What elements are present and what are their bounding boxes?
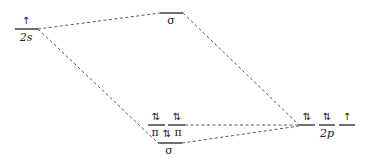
electron-arrow-2p-3: ↑	[343, 112, 351, 122]
label-pi-2: π	[174, 127, 181, 138]
correlation-lines	[38, 13, 299, 143]
mo-diagram-canvas	[0, 0, 373, 162]
electron-arrow-2p-2: ⇅	[323, 112, 331, 122]
label-sigma-star: σ	[167, 15, 175, 26]
label-sigma: σ	[165, 145, 173, 156]
electron-arrow-2s: ↑	[22, 16, 30, 26]
label-2p: 2p	[320, 128, 334, 139]
dash-sigma-star-to-2p	[183, 13, 299, 125]
electron-arrow-sigma: ⇅	[163, 129, 171, 139]
dash-sigma-to-2p	[182, 126, 299, 143]
energy-levels	[15, 13, 355, 143]
dash-2s-to-sigma	[38, 29, 158, 143]
electron-arrow-pi-2: ⇅	[173, 112, 181, 122]
dash-2s-to-sigma-star	[38, 13, 160, 29]
electron-arrow-pi-1: ⇅	[152, 112, 160, 122]
label-2s: 2s	[20, 32, 33, 43]
label-pi-1: π	[151, 127, 158, 138]
electron-arrow-2p-1: ⇅	[303, 112, 311, 122]
